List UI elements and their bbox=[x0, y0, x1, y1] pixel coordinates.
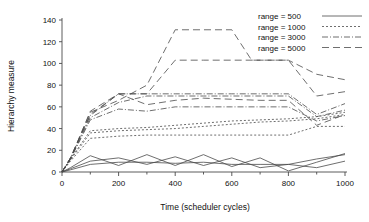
x-tick-label: 800 bbox=[282, 179, 296, 188]
x-tick-label: 200 bbox=[112, 179, 126, 188]
legend-label-solid: range = 500 bbox=[258, 12, 301, 21]
y-tick-label: 60 bbox=[47, 103, 56, 112]
series-line-0 bbox=[62, 154, 345, 172]
y-tick-label: 140 bbox=[43, 16, 57, 25]
x-tick-label: 600 bbox=[225, 179, 239, 188]
series-line-2 bbox=[62, 155, 345, 172]
x-axis-label: Time (scheduler cycles) bbox=[160, 202, 250, 212]
series-line-10 bbox=[62, 60, 345, 172]
y-tick-label: 100 bbox=[43, 59, 57, 68]
chart-figure: 02040608010012014002004006008001000 rang… bbox=[0, 0, 369, 222]
y-tick-label: 40 bbox=[47, 125, 56, 134]
y-axis-label: Hierarchy measure bbox=[6, 60, 16, 132]
legend-label-dashed: range = 5000 bbox=[258, 44, 306, 53]
y-tick-label: 80 bbox=[47, 81, 56, 90]
x-tick-label: 1000 bbox=[336, 179, 354, 188]
y-tick-label: 20 bbox=[47, 146, 56, 155]
x-tick-label: 0 bbox=[60, 179, 65, 188]
x-tick-label: 400 bbox=[169, 179, 183, 188]
y-tick-label: 120 bbox=[43, 38, 57, 47]
legend-label-dash-dot: range = 3000 bbox=[258, 33, 306, 42]
chart-legend: range = 500range = 1000range = 3000range… bbox=[258, 12, 362, 53]
hierarchy-measure-line-chart: 02040608010012014002004006008001000 rang… bbox=[0, 0, 369, 222]
legend-label-dotted: range = 1000 bbox=[258, 23, 306, 32]
y-tick-label: 0 bbox=[52, 168, 57, 177]
series-line-1 bbox=[62, 157, 345, 172]
